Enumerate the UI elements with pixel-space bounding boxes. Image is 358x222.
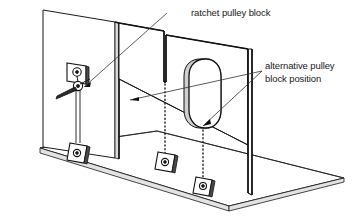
anchor-centre-hub [164,161,167,164]
anchor-block-centre [155,152,178,173]
pulley-upper-hub [76,71,79,74]
anchor-block-right [193,177,215,197]
oval-opening-inner [189,59,221,128]
right-wall-panel [248,49,252,195]
pulley-plate-edge [86,66,89,85]
anchor-right-hub [202,185,205,188]
leader-arrow-alt-centre [130,97,139,101]
label-alternative-pulley-line1: alternative pulley [265,60,335,71]
isometric-scene: ratchet pulley block alternative pulley … [0,0,358,222]
anchor-left-hub [76,152,79,155]
left-wall-top-edge [115,22,119,23]
technical-diagram: ratchet pulley block alternative pulley … [0,0,358,222]
label-ratchet-pulley-block: ratchet pulley block [191,7,271,18]
label-alternative-pulley-line2: block position [265,73,321,84]
ratchet-wheel-hub [76,84,79,87]
oval-opening [184,59,221,128]
anchor-block-left [67,143,90,164]
